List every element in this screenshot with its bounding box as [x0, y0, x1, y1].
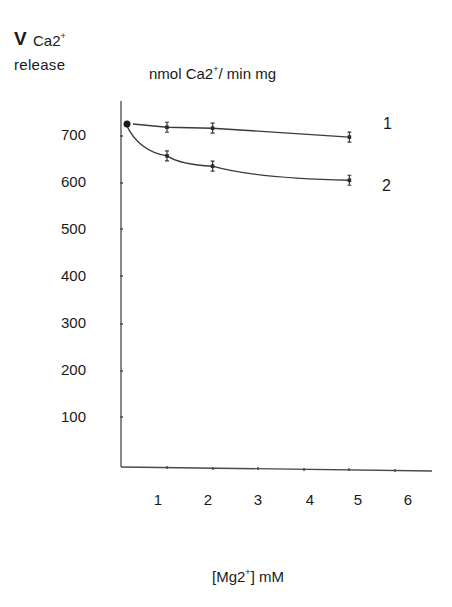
data-point-marker [165, 154, 169, 158]
series-2-line [126, 124, 349, 180]
start-point-marker [124, 121, 131, 128]
data-point-marker [165, 125, 169, 129]
data-point-marker [348, 135, 352, 139]
data-point-marker [211, 126, 215, 130]
data-point-marker [211, 164, 215, 168]
data-point-marker [348, 178, 352, 182]
data-series [126, 122, 351, 185]
chart-plot [0, 0, 452, 607]
